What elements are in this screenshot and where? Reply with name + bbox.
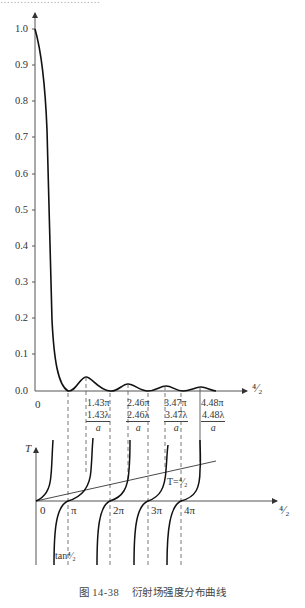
y-tick-0.8: 0.8 xyxy=(0,96,28,106)
peak-fraction-1: 1.43λ a xyxy=(86,410,110,433)
x-tick-3pi: 3π xyxy=(151,505,162,516)
peak-fraction-3: 3.47λ a xyxy=(164,410,188,433)
lower-x-axis-label: ⁴⁄₂ xyxy=(279,504,289,516)
fraction-denominator: a xyxy=(86,422,110,433)
y-tick-0.5: 0.5 xyxy=(0,205,28,215)
fraction-numerator: 4.48λ xyxy=(201,410,225,422)
fraction-numerator: 3.47λ xyxy=(164,410,188,422)
caption-number: 图 14-38 xyxy=(79,587,120,598)
line-T xyxy=(36,461,216,501)
upper-origin-label: 0 xyxy=(35,399,41,410)
fraction-numerator: 2.46λ xyxy=(126,410,150,422)
y-tick-0.2: 0.2 xyxy=(0,313,28,323)
lower-origin-label: 0 xyxy=(40,505,46,516)
fraction-denominator: a xyxy=(164,422,188,433)
peak-label-1: 1.43π xyxy=(87,397,110,408)
x-tick-2pi: 2π xyxy=(113,505,124,516)
y-tick-0.9: 0.9 xyxy=(0,60,28,70)
y-tick-0.6: 0.6 xyxy=(0,169,28,179)
x-tick-pi: π xyxy=(71,505,77,516)
upper-x-axis-label: ⁴⁄₂ xyxy=(252,382,262,394)
peak-fraction-2: 2.46λ a xyxy=(126,410,150,433)
peak-label-3: 3.47π xyxy=(164,397,187,408)
peak-label-4: 4.48π xyxy=(201,397,224,408)
line-T-label: T=⁴⁄₂ xyxy=(167,476,187,487)
peak-label-2: 2.46π xyxy=(127,397,150,408)
fraction-denominator: a xyxy=(126,422,150,433)
y-tick-1.0: 1.0 xyxy=(0,24,28,34)
x-tick-4pi: 4π xyxy=(184,505,195,516)
caption-text: 衍射场强度分布曲线 xyxy=(132,587,227,598)
fraction-numerator: 1.43λ xyxy=(86,410,110,422)
figure-caption: 图 14-38 衍射场强度分布曲线 xyxy=(0,584,305,599)
tan-label: tan⁴⁄₂ xyxy=(55,550,76,561)
diffraction-figure xyxy=(0,0,305,608)
peak-fraction-4: 4.48λ a xyxy=(201,410,225,433)
intensity-curve xyxy=(35,29,216,391)
y-tick-0.1: 0.1 xyxy=(0,349,28,359)
y-tick-0.3: 0.3 xyxy=(0,277,28,287)
y-tick-0.4: 0.4 xyxy=(0,241,28,251)
fraction-denominator: a xyxy=(201,422,225,433)
y-tick-0.0: 0.0 xyxy=(0,386,28,396)
T-axis-label: T xyxy=(25,443,31,454)
upper-plot-axes xyxy=(32,13,247,391)
y-tick-0.7: 0.7 xyxy=(0,132,28,142)
